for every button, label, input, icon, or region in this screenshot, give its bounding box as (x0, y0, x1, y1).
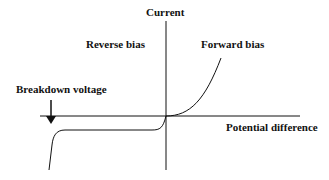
forward-bias-curve (166, 58, 221, 116)
reverse-bias-label: Reverse bias (86, 38, 145, 50)
reverse-bias-curve (49, 116, 166, 170)
forward-bias-label: Forward bias (201, 38, 264, 50)
breakdown-arrow-head-icon (46, 116, 56, 124)
breakdown-voltage-label: Breakdown voltage (16, 83, 107, 95)
y-axis-label: Current (146, 6, 184, 18)
x-axis-label: Potential difference (226, 121, 318, 133)
